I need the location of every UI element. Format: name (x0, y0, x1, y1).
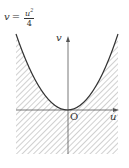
equals-sign: = (12, 11, 20, 22)
fraction-denominator: 4 (27, 19, 32, 28)
v-axis-arrow-icon (66, 36, 70, 42)
u-axis-label: u (110, 111, 116, 122)
equation-lhs: v (4, 11, 10, 22)
fraction: u2 4 (24, 6, 34, 28)
shaded-region (16, 34, 118, 154)
fraction-numerator: u2 (24, 6, 34, 19)
origin-label: O (70, 111, 78, 122)
v-axis-label: v (56, 32, 62, 43)
numerator-exponent: 2 (30, 7, 33, 13)
equation-label: v = u2 4 (4, 6, 34, 28)
